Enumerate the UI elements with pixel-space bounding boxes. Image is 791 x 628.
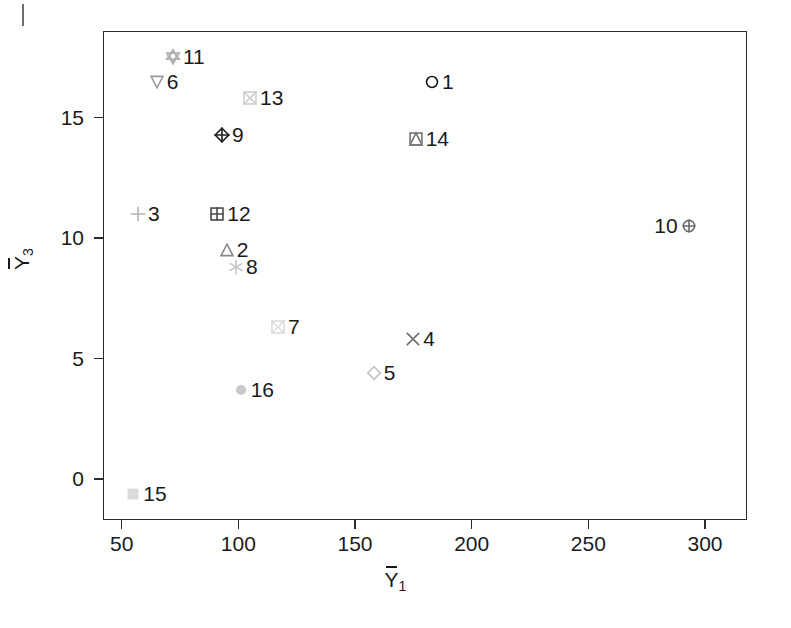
- scatter-plot-figure: 50100150200250300 051015 123456789101112…: [0, 0, 791, 628]
- data-point-label-10: 10: [654, 214, 677, 238]
- data-point-marker-11[interactable]: [165, 49, 182, 66]
- x-tick-label: 300: [687, 532, 722, 556]
- data-point-label-14: 14: [426, 127, 449, 151]
- data-point-marker-15[interactable]: [125, 485, 142, 502]
- data-point-label-15: 15: [143, 482, 166, 506]
- data-point-label-12: 12: [227, 202, 250, 226]
- data-point-marker-13[interactable]: [242, 90, 259, 107]
- x-tick-mark: [354, 520, 355, 529]
- data-point-marker-1[interactable]: [424, 73, 441, 90]
- x-tick-mark: [704, 520, 705, 529]
- data-point-label-1: 1: [442, 70, 454, 94]
- y-axis-title-subscript: 3: [20, 248, 36, 256]
- data-point-marker-2[interactable]: [218, 242, 235, 259]
- data-point-label-5: 5: [384, 361, 396, 385]
- data-point-label-4: 4: [423, 327, 435, 351]
- x-axis-title-subscript: 1: [399, 578, 407, 594]
- data-point-marker-5[interactable]: [365, 365, 382, 382]
- y-tick-label: 10: [0, 226, 96, 250]
- data-point-marker-12[interactable]: [209, 206, 226, 223]
- y-tick-label: 5: [0, 347, 96, 371]
- plot-frame: [103, 31, 747, 520]
- data-point-label-7: 7: [288, 315, 300, 339]
- data-point-label-3: 3: [148, 202, 160, 226]
- data-point-label-9: 9: [232, 123, 244, 147]
- x-axis-title: Y1: [0, 568, 791, 594]
- x-tick-label: 250: [571, 532, 606, 556]
- data-point-label-13: 13: [260, 86, 283, 110]
- data-point-marker-10[interactable]: [680, 218, 697, 235]
- data-point-marker-4[interactable]: [405, 331, 422, 348]
- data-point-marker-8[interactable]: [228, 259, 245, 276]
- x-tick-mark: [471, 520, 472, 529]
- y-tick-label: 0: [0, 467, 96, 491]
- x-tick-mark: [238, 520, 239, 529]
- data-point-label-16: 16: [251, 378, 274, 402]
- data-point-label-6: 6: [167, 70, 179, 94]
- data-point-label-11: 11: [183, 45, 205, 69]
- x-tick-mark: [121, 520, 122, 529]
- y-tick-label: 15: [0, 106, 96, 130]
- corner-artifact-mark: [22, 4, 24, 26]
- data-point-marker-9[interactable]: [214, 126, 231, 143]
- x-tick-label: 50: [110, 532, 133, 556]
- data-point-label-8: 8: [246, 255, 258, 279]
- data-point-marker-3[interactable]: [130, 206, 147, 223]
- x-tick-mark: [588, 520, 589, 529]
- x-tick-label: 200: [454, 532, 489, 556]
- x-tick-label: 100: [221, 532, 256, 556]
- data-point-marker-16[interactable]: [232, 381, 249, 398]
- y-axis-title-base: Y: [10, 256, 34, 270]
- x-axis-title-base: Y: [385, 568, 399, 592]
- data-point-marker-7[interactable]: [270, 319, 287, 336]
- x-tick-label: 150: [337, 532, 372, 556]
- data-point-marker-6[interactable]: [148, 73, 165, 90]
- y-axis-title: Y3: [10, 248, 36, 270]
- data-point-marker-14[interactable]: [407, 131, 424, 148]
